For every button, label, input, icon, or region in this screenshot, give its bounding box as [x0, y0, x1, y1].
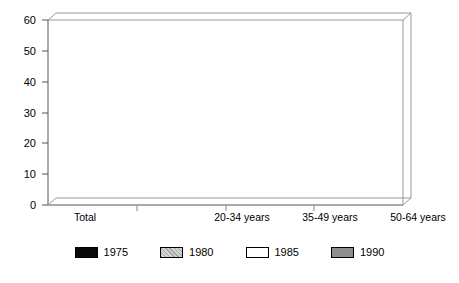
bar-chart: 60 50 40 30 20 10 0 Total20-34 years35-4…	[0, 0, 459, 283]
legend-item-1985[interactable]: 1985	[246, 247, 299, 258]
x-axis-label-35-49-years: 35-49 years	[302, 211, 357, 223]
x-axis-labels: Total20-34 years35-49 years50-64 years	[0, 0, 459, 283]
legend-label: 1980	[189, 247, 213, 258]
legend-swatch-1985	[246, 247, 269, 258]
legend-swatch-1980	[160, 247, 183, 258]
legend-swatch-1975	[75, 247, 98, 258]
legend-swatch-1990	[331, 247, 354, 258]
legend-label: 1975	[104, 247, 128, 258]
legend-item-1980[interactable]: 1980	[160, 247, 213, 258]
x-axis-label-20-34-years: 20-34 years	[214, 211, 269, 223]
legend-item-1990[interactable]: 1990	[331, 247, 384, 258]
legend-item-1975[interactable]: 1975	[75, 247, 128, 258]
x-axis-label-total: Total	[74, 211, 96, 223]
legend-label: 1990	[360, 247, 384, 258]
chart-legend: 1975198019851990	[0, 247, 459, 258]
legend-label: 1985	[275, 247, 299, 258]
x-axis-label-50-64-years: 50-64 years	[390, 211, 445, 223]
